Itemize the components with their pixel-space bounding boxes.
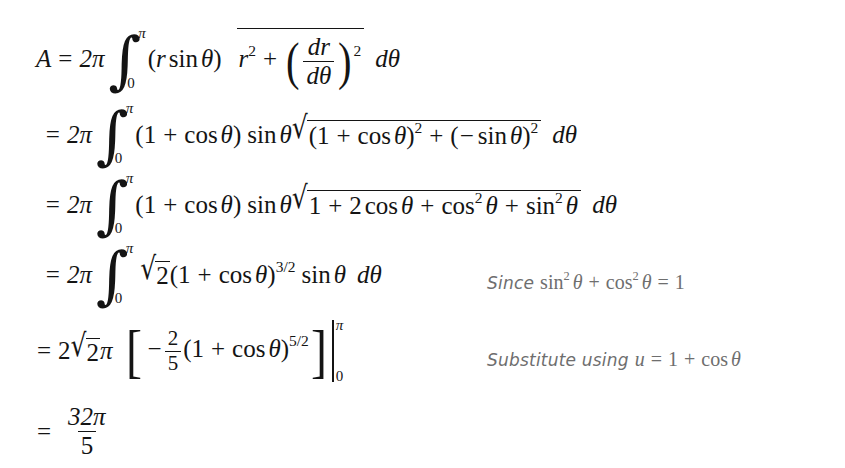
- plus-sign: +: [335, 122, 351, 149]
- integral-lower-limit: 0: [127, 76, 135, 91]
- cos-function: cos: [232, 335, 265, 362]
- const-one: 1: [144, 191, 157, 218]
- coefficient-two-pi: 2π: [67, 121, 92, 148]
- exponent-two: 2: [475, 189, 483, 206]
- integral-sign-2: ∫ π 0: [96, 105, 127, 163]
- fraction-denominator-5: 5: [165, 351, 182, 375]
- equation-line-6: = 32π 5: [36, 404, 111, 459]
- cos-function: cos: [184, 191, 217, 218]
- integral-glyph: ∫: [96, 256, 129, 295]
- line-4-lhs: =2π: [36, 262, 92, 287]
- symbol-theta: θ: [642, 271, 652, 293]
- derivative-fraction: drdθ: [303, 34, 334, 89]
- annotation-1-math: sin2θ+cos2θ=1: [540, 271, 685, 293]
- plus-sign: +: [327, 192, 343, 219]
- integral-upper-limit: π: [126, 171, 134, 186]
- symbol-theta: θ: [394, 122, 406, 149]
- const-one: 1: [192, 335, 205, 362]
- line-3-integrand-prefix: (1+cosθ)sinθ: [135, 192, 291, 217]
- sin-function: sin: [301, 261, 330, 288]
- symbol-theta: θ: [573, 271, 583, 293]
- plus-sign: +: [210, 335, 226, 362]
- radicand-two: 2: [86, 338, 101, 365]
- square-root-of-two: √ 2: [140, 261, 169, 288]
- const-two: 2: [349, 192, 362, 219]
- symbol-theta: θ: [255, 261, 267, 288]
- equation-line-5: =2√2π [ −25(1+cosθ)5/2 ] π 0: [36, 320, 343, 382]
- const-two: 2: [58, 337, 71, 364]
- radical-glyph: √: [140, 253, 156, 287]
- integral-glyph: ∫: [108, 41, 141, 80]
- exponent-two: 2: [563, 269, 569, 283]
- radical-glyph: √: [71, 330, 87, 364]
- square-root-3: √ 1+2cosθ+cos2θ+sin2θ: [292, 190, 581, 218]
- evaluation-limits: π 0: [336, 320, 344, 382]
- const-one: 1: [309, 192, 322, 219]
- integral-sign-4: ∫ π 0: [96, 245, 127, 303]
- symbol-theta: θ: [566, 192, 578, 219]
- const-one: 1: [675, 271, 685, 293]
- annotation-2-lead-word: Substitute using: [487, 350, 629, 370]
- symbol-theta: θ: [731, 348, 741, 370]
- fraction-numerator-dr: dr: [305, 34, 333, 61]
- square-root-2: √ (1+cosθ)2+(−sinθ)2: [292, 120, 542, 148]
- sin-function: sin: [247, 191, 276, 218]
- const-two: 2: [87, 339, 100, 366]
- equals-sign: =: [45, 261, 61, 288]
- equation-line-3: =2π ∫ π 0 (1+cosθ)sinθ √ 1+2cosθ+cos2θ+s…: [36, 175, 617, 233]
- integral-glyph: ∫: [96, 116, 129, 155]
- evaluation-upper-limit: π: [336, 318, 344, 333]
- radicand-r-exponent: 2: [248, 42, 256, 59]
- exponent-two: 2: [531, 119, 539, 136]
- const-one: 1: [144, 121, 157, 148]
- cos-function: cos: [365, 192, 398, 219]
- const-one: 1: [317, 122, 330, 149]
- evaluation-lower-limit: 0: [336, 369, 344, 384]
- radical-glyph: √: [222, 0, 238, 84]
- plus-sign: +: [428, 122, 444, 149]
- fraction-numerator-32pi: 32π: [65, 404, 109, 431]
- annotation-since-pythagorean: Sincesin2θ+cos2θ=1: [487, 271, 685, 294]
- equals-sign: =: [651, 348, 662, 370]
- fraction-numerator-2: 2: [165, 328, 182, 351]
- line-3-differential: dθ: [592, 192, 617, 217]
- exponent-two: 2: [632, 269, 638, 283]
- symbol-theta: θ: [401, 192, 413, 219]
- equals-sign: =: [36, 419, 52, 444]
- integral-upper-limit: π: [126, 101, 134, 116]
- symbol-theta: θ: [268, 335, 280, 362]
- radicand-r: r: [239, 45, 249, 72]
- integral-upper-limit: π: [138, 26, 146, 41]
- cos-function: cos: [606, 271, 633, 293]
- coefficient-two-pi: 2π: [67, 191, 92, 218]
- symbol-theta: θ: [201, 45, 213, 72]
- exponent-five-halves: 5/2: [289, 332, 309, 349]
- equals-sign: =: [36, 337, 52, 364]
- line-5-lhs: =2√2π: [36, 338, 113, 365]
- equals-sign: =: [657, 271, 668, 293]
- annotation-substitute-u: Substitute usingu=1+cosθ: [487, 348, 741, 371]
- annotation-1-lead-word: Since: [487, 273, 534, 293]
- annotation-2-math: u=1+cosθ: [635, 348, 741, 370]
- line-2-differential: dθ: [552, 122, 577, 147]
- equation-line-1: A=2π ∫ π 0 (rsinθ) √ r2+(drdθ)2 dθ: [36, 28, 400, 89]
- fraction-result: 32π 5: [65, 404, 109, 459]
- plus-sign: +: [504, 192, 520, 219]
- sin-function: sin: [540, 271, 563, 293]
- symbol-theta: θ: [279, 191, 291, 218]
- symbol-pi: π: [100, 337, 113, 364]
- evaluation-bar: π 0: [332, 320, 344, 382]
- symbol-theta: θ: [221, 121, 233, 148]
- integral-lower-limit: 0: [115, 221, 123, 236]
- coefficient-two-pi: 2π: [67, 261, 92, 288]
- line-1-differential: dθ: [375, 46, 400, 71]
- const-two: 2: [156, 262, 169, 289]
- sin-function: sin: [478, 122, 507, 149]
- integral-lower-limit: 0: [115, 291, 123, 306]
- symbol-radius: r: [156, 45, 166, 72]
- integral-lower-limit: 0: [115, 151, 123, 166]
- exponent-two: 2: [415, 119, 423, 136]
- equals-sign: =: [57, 45, 73, 72]
- plus-sign: +: [262, 45, 278, 72]
- line-1-lhs: A=2π: [36, 46, 104, 71]
